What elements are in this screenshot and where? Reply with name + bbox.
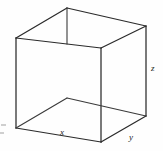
edge-bottom-back-to-bottom-right [67, 98, 146, 116]
axis-label-z: z [151, 64, 155, 73]
axis-label-y: y [129, 133, 133, 142]
edge-bottom-left-to-bottom-back [16, 98, 67, 128]
scan-speck-left-lower [0, 132, 4, 134]
axis-label-x: x [60, 128, 64, 137]
scan-speck-left [1, 124, 6, 126]
edge-bottom-front-to-bottom-right [101, 116, 146, 142]
edge-top-right-to-top-front [101, 26, 146, 48]
cube-figure: x y z [0, 0, 163, 151]
edge-top-back-to-top-right [67, 8, 146, 26]
cube-wireframe-svg [0, 0, 163, 151]
edge-top-left-to-top-front [16, 38, 101, 48]
edge-bottom-left-to-bottom-front [16, 128, 101, 142]
edge-top-back-to-top-left [16, 8, 67, 38]
